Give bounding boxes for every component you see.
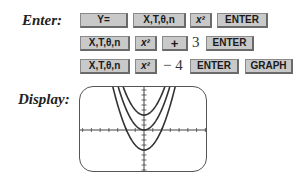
plus-key[interactable]: + [162,36,188,51]
xt-theta-n-key[interactable]: X,T,θ,n [80,59,130,74]
typed-minus-four: − 4 [163,58,183,73]
graph-key[interactable]: GRAPH [245,59,293,74]
enter-label: Enter: [22,12,62,29]
xt-theta-n-key[interactable]: X,T,θ,n [133,13,186,28]
enter-key[interactable]: ENTER [217,13,268,28]
key-label: x² [141,38,150,48]
key-label: X,T,θ,n [89,61,121,71]
x-squared-key[interactable]: x² [190,13,212,28]
key-label: X,T,θ,n [143,15,175,25]
key-label: GRAPH [250,61,286,71]
y-equals-key[interactable]: Y= [80,13,128,28]
x-squared-key[interactable]: x² [135,59,157,74]
graph-plot [80,87,207,172]
key-label: + [171,37,179,50]
key-label: x² [141,61,150,71]
key-label: ENTER [225,15,259,25]
key-label: ENTER [213,38,247,48]
key-label: Y= [97,15,110,25]
x-squared-key[interactable]: x² [135,36,157,51]
xt-theta-n-key[interactable]: X,T,θ,n [80,36,130,51]
key-label: x² [196,15,205,25]
display-label: Display: [18,91,70,108]
enter-key[interactable]: ENTER [190,59,239,74]
key-label: ENTER [197,61,231,71]
calculator-display [79,86,207,172]
enter-key[interactable]: ENTER [206,36,254,51]
key-label: X,T,θ,n [89,38,121,48]
typed-digit: 3 [192,35,200,50]
